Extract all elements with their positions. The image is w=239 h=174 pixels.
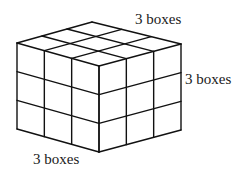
left-face-horizontal	[17, 129, 99, 152]
left-face-horizontal	[17, 100, 99, 123]
label-depth: 3 boxes	[135, 11, 181, 27]
cube-diagram: 3 boxes 3 boxes 3 boxes	[0, 0, 239, 174]
right-face-horizontal	[99, 73, 181, 95]
left-face-horizontal	[17, 72, 99, 95]
right-face-horizontal	[99, 130, 181, 152]
label-height: 3 boxes	[185, 71, 231, 87]
cube-grid-lines	[17, 22, 181, 152]
label-width: 3 boxes	[33, 151, 79, 167]
right-face-horizontal	[99, 101, 181, 123]
